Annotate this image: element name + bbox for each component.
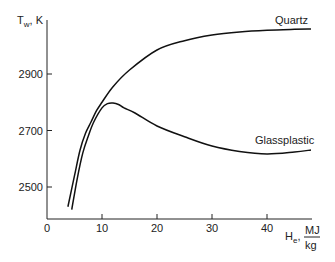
chart: 010203040 250027002900 Tw, K He, MJ kg Q… [0,0,335,262]
x-tick-label: 0 [44,222,50,234]
x-tick-label: 30 [206,222,218,234]
annotation-quartz: Quartz [275,14,308,26]
annotation-glassplastic: Glassplastic [255,134,315,146]
y-tick-label: 2500 [19,181,43,193]
series-line-glassplastic [72,103,311,210]
y-tick-label: 2700 [19,125,43,137]
svg-text:He,: He, [285,230,300,245]
y-axis-label: Tw, K [17,14,44,29]
x-unit-denominator: kg [305,239,317,251]
x-axis-label: He, MJ kg [285,224,320,251]
series-line-quartz [68,29,311,207]
x-tick-label: 20 [151,222,163,234]
x-unit-numerator: MJ [305,224,320,236]
x-tick-label: 10 [96,222,108,234]
y-tick-label: 2900 [19,68,43,80]
x-tick-label: 40 [261,222,273,234]
